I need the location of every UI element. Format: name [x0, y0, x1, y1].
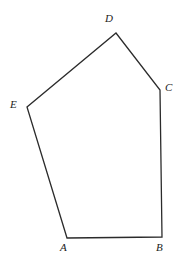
vertex-label-b: B: [156, 242, 163, 253]
vertex-label-d: D: [105, 13, 113, 24]
vertex-label-c: C: [165, 82, 172, 93]
pentagon-outline: [27, 33, 162, 238]
pentagon-diagram: [0, 0, 180, 263]
vertex-label-e: E: [10, 99, 17, 110]
vertex-label-a: A: [60, 242, 67, 253]
figure-canvas: A B C D E: [0, 0, 180, 263]
